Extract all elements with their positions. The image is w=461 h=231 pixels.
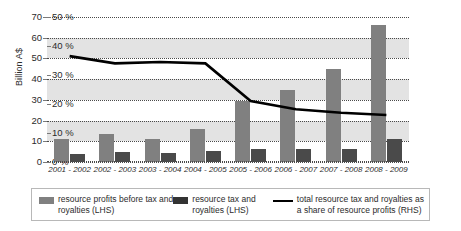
legend-item-resource-profits: resource profits before tax and royaltie… [32,194,173,216]
y-axis-left-tick-label: 40 [31,73,47,84]
legend-swatch-tax-icon [173,197,188,204]
y-axis-left-tick-label: 20 [31,115,47,126]
y-axis-title: Billion A$ [14,7,24,127]
legend-swatch-profits-icon [39,197,54,204]
chart-container: Billion A$ 010203040506070 0 %10 %20 %30… [0,0,461,231]
y-axis-left-tick-label: 30 [31,94,47,105]
x-axis-tick-label: 2004 - 2005 [183,165,228,174]
x-axis-tick-label: 2002 - 2003 [92,165,137,174]
y-axis-left-tick-label: 60 [31,32,47,43]
gridline [47,162,409,163]
y-axis-left-tick-label: 10 [31,135,47,146]
x-axis-tick-label: 2008 - 2009 [364,165,409,174]
x-axis-tick-label: 2006 - 2007 [273,165,318,174]
plot-area: 010203040506070 0 %10 %20 %30 %40 %50 % … [47,17,409,162]
x-axis-line [47,161,409,162]
legend-label-profits: resource profits before tax and royaltie… [58,194,173,216]
x-axis-tick-label: 2003 - 2004 [138,165,183,174]
line-series-path [70,56,387,115]
y-axis-left-tick-label: 0 [37,156,47,167]
legend-item-share-line: total resource tax and royalties as a sh… [273,194,429,216]
legend-item-resource-tax: resource tax and royalties (LHS) [173,194,272,216]
x-axis-tick-label: 2005 - 2006 [228,165,273,174]
chart-legend: resource profits before tax and royaltie… [31,188,430,221]
line-series-svg [47,17,409,162]
legend-label-share: total resource tax and royalties as a sh… [297,194,429,216]
y-axis-left-tick-label: 50 [31,52,47,63]
y-axis-left-tick-label: 70 [31,11,47,22]
x-axis-tick-label: 2001 - 2002 [47,165,92,174]
legend-swatch-line-icon [273,200,293,202]
legend-label-tax: resource tax and royalties (LHS) [192,194,272,216]
x-axis-tick-label: 2007 - 2008 [319,165,364,174]
